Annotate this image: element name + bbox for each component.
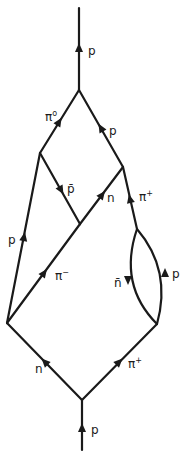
label-incoming-p: p [91,423,99,437]
label-n-lower: n [35,362,43,376]
label-pi-plus-lower: π+ [128,356,142,371]
arrow-up-left-icon [95,122,106,134]
label-p-left: p [8,233,16,247]
label-pi-zero: πo [45,109,57,124]
proton-loop-line [137,229,162,324]
antineutron-loop-line [131,229,157,324]
arrow-down-icon [124,276,132,285]
diagram-lines [7,8,162,450]
label-p-loop: p [172,267,180,281]
arrow-up-icon [75,43,83,52]
particle-labels: p πo p p̄ n π+ p π− n̄ p n π+ p [8,44,180,437]
feynman-diagram: p πo p p̄ n π+ p π− n̄ p n π+ p [0,0,188,454]
label-n-upper: n [107,191,115,205]
label-pi-minus: π− [55,268,69,283]
arrow-up-icon [78,423,86,432]
arrow-up-icon [161,268,169,277]
label-n-bar: n̄ [114,276,122,290]
arrow-down-right-icon [56,185,67,197]
label-p-bar: p̄ [67,182,75,196]
label-outgoing-p: p [88,44,96,58]
label-p-right: p [109,124,117,138]
label-pi-plus-upper: π+ [139,189,153,204]
